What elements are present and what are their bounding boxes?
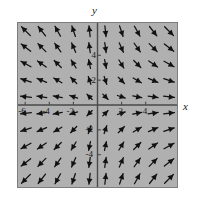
x-axis-label: x xyxy=(183,101,188,112)
x-tick-label: 2 xyxy=(119,107,124,116)
field-arrow-head xyxy=(135,46,141,52)
field-arrow-head xyxy=(38,61,44,67)
field-arrow-head xyxy=(53,110,59,116)
x-tick-label: -6 xyxy=(18,107,26,116)
field-arrow-head xyxy=(38,143,44,149)
field-arrow-head xyxy=(55,43,61,49)
x-tick-label: -4 xyxy=(42,107,50,116)
field-arrow-head xyxy=(87,43,93,49)
field-arrow-head xyxy=(152,94,158,100)
y-tick-label: -2 xyxy=(86,125,94,134)
field-arrow-head xyxy=(135,158,141,164)
field-arrow-head xyxy=(102,157,108,163)
y-tick-label: 4 xyxy=(92,51,97,60)
y-tick-label: -4 xyxy=(86,150,94,159)
field-arrow-head xyxy=(151,143,157,149)
field-arrow-head xyxy=(136,94,142,100)
field-arrow-head xyxy=(37,94,43,100)
vector-field-figure: y x -6-4-22442-2-4 xyxy=(0,0,197,205)
field-arrow-head xyxy=(102,62,108,68)
field-arrow-head xyxy=(136,111,142,117)
field-arrow-head xyxy=(87,161,93,167)
field-arrow-head xyxy=(55,161,61,167)
y-tick-label: 2 xyxy=(92,76,97,85)
field-arrow-head xyxy=(87,60,93,66)
field-arrow-head xyxy=(102,142,108,148)
plot-area xyxy=(17,22,178,188)
field-arrow-head xyxy=(102,47,108,53)
field-arrow-head xyxy=(53,94,59,100)
field-arrow-head xyxy=(152,110,158,116)
y-axis-label: y xyxy=(92,5,97,16)
field-arrow-head xyxy=(151,61,157,67)
x-tick-label: -2 xyxy=(66,107,74,116)
x-tick-label: 4 xyxy=(143,107,148,116)
vector-field-canvas xyxy=(18,23,177,187)
